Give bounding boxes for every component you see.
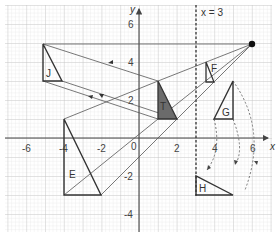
mirror-line-label: x = 3 [201, 7, 223, 18]
svg-text:6: 6 [128, 19, 134, 30]
svg-text:-4: -4 [124, 209, 133, 220]
svg-text:T: T [160, 101, 166, 112]
centre-of-enlargement-point [249, 41, 255, 47]
svg-text:H: H [199, 183, 206, 194]
svg-text:-2: -2 [97, 143, 106, 154]
svg-text:-2: -2 [124, 171, 133, 182]
svg-text:J: J [46, 68, 51, 79]
svg-text:F: F [211, 63, 217, 74]
svg-text:-6: -6 [22, 143, 31, 154]
svg-text:0: 0 [131, 141, 137, 152]
coordinate-grid: x y -6 -4 -2 0 2 4 6 6 4 2 -2 -4 x = 3 [0, 0, 279, 241]
svg-text:6: 6 [250, 143, 256, 154]
svg-text:G: G [222, 107, 230, 118]
x-axis-label: x [269, 141, 276, 152]
diagram-canvas: x y -6 -4 -2 0 2 4 6 6 4 2 -2 -4 x = 3 [0, 0, 279, 241]
svg-text:E: E [69, 169, 76, 180]
svg-text:4: 4 [128, 57, 134, 68]
y-axis-label: y [129, 4, 136, 15]
svg-text:2: 2 [174, 143, 180, 154]
